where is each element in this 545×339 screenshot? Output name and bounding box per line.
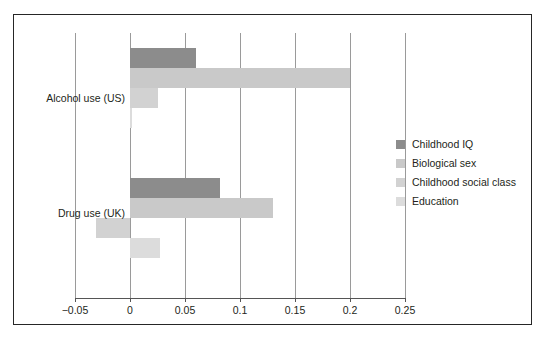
tick-mark-015 — [295, 298, 296, 302]
chart-figure: −0.05 0 0.05 0.1 0.15 0.2 0.25 Alcohol u… — [0, 0, 545, 339]
x-tick-label: 0.15 — [265, 304, 325, 316]
plot-area — [75, 33, 405, 298]
legend-label: Biological sex — [412, 157, 476, 169]
tick-mark-005 — [185, 298, 186, 302]
tick-mark-02 — [350, 298, 351, 302]
tick-mark-025 — [405, 298, 406, 302]
legend-swatch-icon — [396, 140, 405, 149]
legend-item-childhood-social-class: Childhood social class — [396, 174, 516, 190]
tick-mark-neg005 — [75, 298, 76, 302]
bar-alcohol-education — [130, 108, 132, 128]
legend-item-biological-sex: Biological sex — [396, 155, 516, 171]
legend-item-childhood-iq: Childhood IQ — [396, 136, 516, 152]
legend-swatch-icon — [396, 178, 405, 187]
x-tick-label: 0.1 — [210, 304, 270, 316]
tick-mark-01 — [240, 298, 241, 302]
bar-alcohol-biological-sex — [130, 68, 350, 88]
bar-drug-childhood-iq — [130, 178, 220, 198]
bar-alcohol-childhood-social-class — [130, 88, 158, 108]
legend-label: Childhood IQ — [412, 138, 473, 150]
x-tick-label: 0.05 — [155, 304, 215, 316]
tick-mark-0 — [130, 298, 131, 302]
legend-swatch-icon — [396, 197, 405, 206]
category-label-alcohol: Alcohol use (US) — [5, 92, 125, 104]
legend-swatch-icon — [396, 159, 405, 168]
x-tick-label: 0 — [100, 304, 160, 316]
bar-drug-biological-sex — [130, 198, 273, 218]
x-tick-label: 0.25 — [375, 304, 435, 316]
x-tick-label: −0.05 — [45, 304, 105, 316]
gridline-neg005 — [75, 33, 76, 298]
chart-legend: Childhood IQ Biological sex Childhood so… — [396, 136, 516, 212]
category-label-drug: Drug use (UK) — [5, 207, 125, 219]
bar-drug-education — [130, 238, 160, 258]
legend-item-education: Education — [396, 193, 516, 209]
x-tick-label: 0.2 — [320, 304, 380, 316]
legend-label: Childhood social class — [412, 176, 516, 188]
bar-drug-childhood-social-class — [96, 218, 130, 238]
gridline-02 — [350, 33, 351, 298]
bar-alcohol-childhood-iq — [130, 48, 196, 68]
legend-label: Education — [412, 195, 459, 207]
